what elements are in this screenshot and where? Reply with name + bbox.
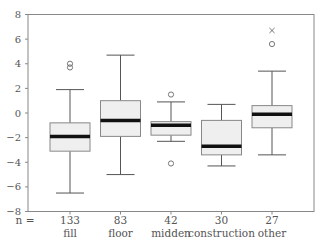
n-prefix-label: n =	[16, 214, 35, 226]
count-label: 133	[60, 214, 80, 226]
category-label: floor	[108, 227, 134, 239]
y-tick-label: 8	[15, 9, 21, 20]
count-label: 30	[215, 214, 228, 226]
outlier-point	[168, 161, 173, 166]
category-label: other	[258, 227, 288, 239]
y-tick-label: −4	[6, 157, 21, 168]
box-midden	[151, 92, 191, 166]
box-other	[252, 28, 292, 155]
outlier-point	[168, 92, 173, 97]
count-label: 42	[164, 214, 177, 226]
y-tick-label: −6	[6, 181, 21, 192]
box-floor	[101, 55, 141, 174]
category-label: fill	[63, 227, 77, 239]
box-construction	[202, 104, 242, 166]
outlier-point	[269, 41, 274, 46]
y-tick-label: 6	[15, 34, 21, 45]
x-axis-labels: n = 133fill83floor42midden30construction…	[16, 212, 288, 240]
y-tick-label: 2	[15, 83, 21, 94]
category-label: midden	[151, 227, 191, 239]
outlier-point	[67, 61, 72, 66]
boxes	[50, 28, 292, 193]
count-label: 27	[265, 214, 278, 226]
box-fill	[50, 61, 90, 193]
y-tick-label: 0	[15, 108, 21, 119]
category-label: construction	[188, 227, 255, 239]
y-axis: −8−6−4−202468	[6, 9, 28, 217]
iqr-box	[252, 106, 292, 128]
iqr-box	[202, 120, 242, 154]
y-tick-label: −2	[6, 132, 21, 143]
iqr-box	[101, 101, 141, 137]
y-tick-label: 4	[15, 58, 21, 69]
extreme-point	[269, 28, 274, 33]
count-label: 83	[114, 214, 127, 226]
boxplot-chart: −8−6−4−202468 n = 133fill83floor42midden…	[0, 0, 330, 247]
